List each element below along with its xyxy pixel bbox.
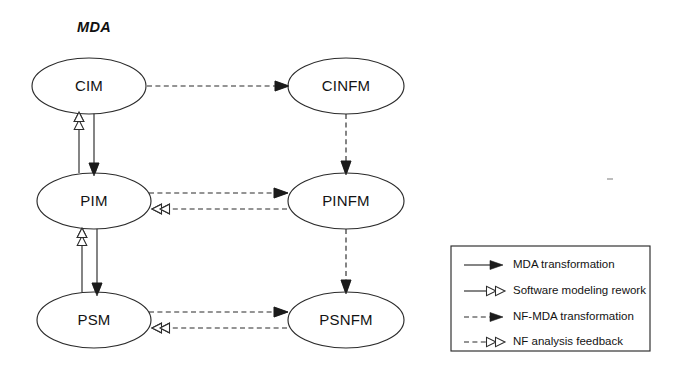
node-cinfm[interactable]: CINFM [288, 58, 404, 114]
node-label-pim: PIM [80, 192, 107, 209]
legend-label-software-modeling-rework: Software modeling rework [513, 284, 646, 296]
edge-pinfm-to-pim [152, 204, 287, 214]
node-psm[interactable]: PSM [37, 292, 151, 348]
legend-label-nf-mda-transformation: NF-MDA transformation [513, 310, 634, 322]
edge-psm-to-psnfm [149, 307, 288, 317]
diagram-title: MDA [77, 19, 111, 35]
node-pinfm[interactable]: PINFM [288, 173, 404, 229]
node-label-cim: CIM [75, 77, 103, 94]
mda-nfmda-diagram: MDA [0, 0, 681, 372]
node-label-psnfm: PSNFM [319, 311, 373, 328]
scan-speck [607, 178, 613, 180]
node-pim[interactable]: PIM [37, 173, 151, 229]
node-psnfm[interactable]: PSNFM [288, 292, 404, 348]
legend-label-nf-analysis-feedback: NF analysis feedback [513, 335, 623, 347]
node-label-cinfm: CINFM [322, 77, 371, 94]
node-cim[interactable]: CIM [32, 58, 146, 114]
edge-cim-to-cinfm [147, 81, 289, 91]
legend: MDA transformation Software modeling rew… [451, 246, 650, 351]
node-label-pinfm: PINFM [322, 192, 370, 209]
node-label-psm: PSM [77, 311, 110, 328]
edge-psnfm-to-psm [152, 323, 287, 333]
edge-pim-to-pinfm [149, 188, 288, 198]
diagram-canvas: MDA [0, 0, 681, 372]
legend-label-mda-transformation: MDA transformation [513, 258, 615, 270]
